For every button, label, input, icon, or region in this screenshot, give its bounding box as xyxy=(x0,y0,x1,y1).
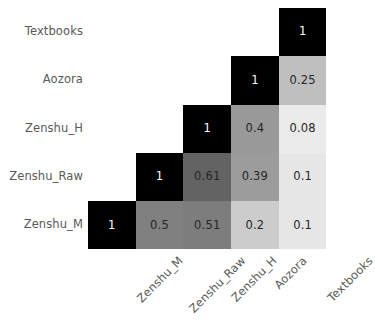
y-axis-tick-label-zenshu-h: Zenshu_H xyxy=(25,123,83,135)
heatmap-cell-value: 0.25 xyxy=(289,75,315,87)
heatmap-cell-value: 0.39 xyxy=(242,171,268,183)
heatmap-cell: 1 xyxy=(183,105,231,153)
heatmap-cell: 0.2 xyxy=(231,201,279,249)
heatmap-cell-value: 0.2 xyxy=(245,220,264,232)
heatmap-cell: 0.39 xyxy=(231,153,279,201)
heatmap-cell: 0.25 xyxy=(279,56,327,104)
heatmap-cell: 1 xyxy=(279,8,327,56)
heatmap-cell: 0.5 xyxy=(136,201,184,249)
heatmap-cell: 0.1 xyxy=(279,201,327,249)
heatmap-cell: 0.4 xyxy=(231,105,279,153)
heatmap-cell: 1 xyxy=(136,153,184,201)
x-axis-tick-label-textbooks: Textbooks xyxy=(326,255,375,304)
y-axis-tick-label-textbooks: Textbooks xyxy=(25,26,83,38)
x-axis-tick-label-zenshu-m: Zenshu_M xyxy=(135,255,185,305)
heatmap-cell-value: 0.4 xyxy=(245,123,264,135)
y-axis-tick-label-zenshu-m: Zenshu_M xyxy=(24,219,83,231)
y-axis-tick-label-zenshu-raw: Zenshu_Raw xyxy=(9,171,83,183)
heatmap-cell-value: 1 xyxy=(203,123,211,135)
heatmap-cell: 0.61 xyxy=(183,153,231,201)
heatmap-cell-value: 1 xyxy=(299,26,307,38)
heatmap-cell-value: 1 xyxy=(156,171,164,183)
heatmap-cell-value: 0.51 xyxy=(194,220,220,232)
y-axis-tick-label-aozora: Aozora xyxy=(43,74,83,86)
x-axis-tick-label-aozora: Aozora xyxy=(273,255,310,292)
heatmap-cell: 1 xyxy=(231,56,279,104)
heatmap-cell-value: 0.61 xyxy=(194,171,220,183)
heatmap-cell-value: 1 xyxy=(251,75,259,87)
heatmap-cell: 0.1 xyxy=(279,153,327,201)
heatmap-cell: 0.08 xyxy=(279,105,327,153)
heatmap-cell: 1 xyxy=(88,201,136,249)
heatmap-cell-value: 0.5 xyxy=(150,220,169,232)
heatmap-cell: 0.51 xyxy=(183,201,231,249)
heatmap-cell-value: 0.08 xyxy=(289,123,315,135)
heatmap-cell-value: 0.1 xyxy=(293,220,312,232)
heatmap-cell-value: 1 xyxy=(108,220,116,232)
heatmap-cell-value: 0.1 xyxy=(293,171,312,183)
